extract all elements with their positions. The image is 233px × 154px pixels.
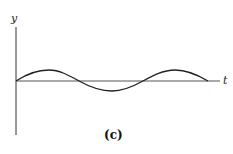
y-axis-label: y — [11, 12, 17, 25]
x-axis-label: t — [223, 74, 227, 87]
figure-caption: (c) — [104, 128, 123, 142]
